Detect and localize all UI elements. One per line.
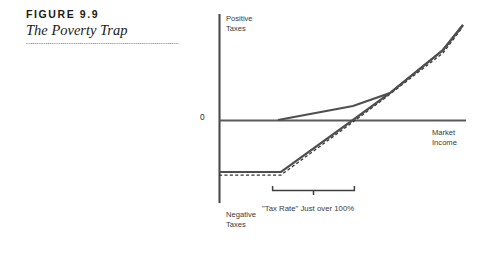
- x-axis-label: Market Income: [432, 128, 457, 147]
- tax-rate-bracket: [272, 186, 355, 195]
- y-axis-positive-label-line1: Positive: [226, 14, 253, 23]
- solid-schedule-curve: [219, 25, 463, 172]
- dashed-reference-curve: [219, 28, 462, 175]
- origin-tick-label: 0: [200, 113, 205, 123]
- upper-solid-segment: [278, 25, 463, 120]
- y-axis-negative-label: Negative Taxes: [226, 210, 256, 229]
- y-axis-negative-label-line2: Taxes: [226, 220, 246, 229]
- y-axis-negative-label-line1: Negative: [226, 210, 256, 219]
- y-axis-positive-label-line2: Taxes: [226, 24, 246, 33]
- figure-container: FIGURE 9.9 The Poverty Trap Positive Tax…: [0, 0, 487, 255]
- x-axis-label-line2: Income: [432, 138, 457, 147]
- y-axis-positive-label: Positive Taxes: [226, 14, 253, 33]
- tax-rate-annotation-label: "Tax Rate" Just over 100%: [262, 204, 354, 214]
- x-axis-label-line1: Market: [432, 128, 455, 137]
